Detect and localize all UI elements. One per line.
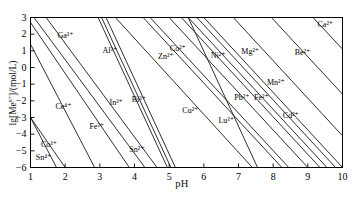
curve-label-cd2+: Cd²⁺ [283,112,299,120]
x-axis-label: pH [0,178,364,189]
plot-area [0,0,364,200]
curve-label-cu2+: Cu²⁺ [182,107,198,115]
curve-label-fe3+: Fe³⁺ [89,123,104,131]
curve-label-mg2+: Mg²⁺ [241,48,259,56]
curve-label-bi3+: Bi³⁺ [132,96,146,104]
curve-label-lu3+: Lu³⁺ [218,117,234,125]
curve-label-al3+: Al³⁺ [103,47,118,55]
curve-label-pb2+: Pb²⁺ [234,94,249,102]
y-tick-label: −6 [9,163,27,173]
y-tick-label: 3 [9,13,27,23]
curve-label-zn2+: Zn²⁺ [158,53,174,61]
plot-frame [31,18,343,168]
curve-lines [31,18,343,168]
curve-label-mn2+: Mn²⁺ [267,79,285,87]
curve-mn2+ [204,18,343,168]
curve-label-sn4+: Sn⁴⁺ [36,154,51,162]
curve-pb2+ [181,18,320,168]
curve-label-ca2+: Ca²⁺ [318,21,334,29]
curve-label-sn2+: Sn²⁺ [129,146,144,154]
curve-label-fe2+: Fe²⁺ [254,94,269,102]
hydroxide-precipitation-chart: 123456789103210−1−2−3−4−5−6 Sn⁴⁺Co³⁺Ce⁴⁺… [0,0,364,200]
curve-label-ni2+: Ni²⁺ [211,52,226,60]
curve-label-co2+: Co²⁺ [170,45,186,53]
y-axis-label: lg[Men+]/(mol/L) [8,28,18,158]
curve-label-in3+: In³⁺ [110,99,123,107]
curve-label-be2+: Be²⁺ [295,49,311,57]
curve-label-co3+: Co³⁺ [41,141,57,149]
curve-label-ga3+: Ga³⁺ [58,32,74,40]
curve-label-ce4+: Ce⁴⁺ [55,103,71,111]
